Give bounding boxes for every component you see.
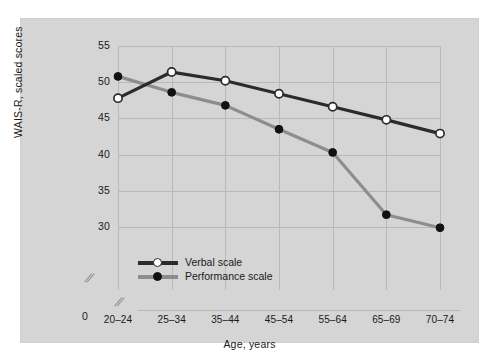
data-point-filled xyxy=(382,211,390,219)
legend-swatch-performance xyxy=(138,270,178,282)
legend-item-performance: Performance scale xyxy=(138,269,273,283)
data-point-open xyxy=(275,90,283,98)
series-lines xyxy=(20,18,479,343)
data-point-open xyxy=(221,77,229,85)
series-line xyxy=(118,76,440,227)
data-point-open xyxy=(114,94,122,102)
data-point-filled xyxy=(329,149,337,157)
legend-label-performance: Performance scale xyxy=(185,270,273,282)
data-point-open xyxy=(168,68,176,76)
data-point-filled xyxy=(168,88,176,96)
data-point-filled xyxy=(275,125,283,133)
chart-legend: Verbal scale Performance scale xyxy=(138,255,273,283)
data-point-filled xyxy=(221,101,229,109)
legend-label-verbal: Verbal scale xyxy=(185,256,242,268)
data-point-filled xyxy=(114,73,122,81)
open-circle-icon xyxy=(153,258,162,267)
data-point-open xyxy=(382,116,390,124)
filled-circle-icon xyxy=(153,272,162,281)
chart-panel: WAIS-R, scaled scores Age, years // // 0… xyxy=(20,18,479,343)
data-point-open xyxy=(436,130,444,138)
data-point-open xyxy=(329,103,337,111)
data-point-filled xyxy=(436,224,444,232)
series-line xyxy=(118,72,440,134)
legend-swatch-verbal xyxy=(138,256,178,268)
legend-item-verbal: Verbal scale xyxy=(138,255,273,269)
chart-figure: WAIS-R, scaled scores Age, years // // 0… xyxy=(0,0,499,361)
